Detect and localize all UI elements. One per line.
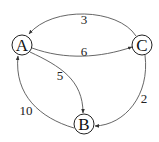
edge-c-to-b bbox=[95, 55, 146, 126]
edge-weight-c-to-b: 2 bbox=[141, 91, 148, 106]
edge-weight-b-to-a: 10 bbox=[20, 103, 33, 118]
edge-weight-a-to-c: 6 bbox=[81, 44, 88, 59]
edge-weight-c-to-a: 3 bbox=[81, 12, 88, 27]
node-a: A bbox=[12, 35, 32, 55]
node-c: C bbox=[132, 35, 152, 55]
graph-canvas: 3 6 5 2 10 A B C bbox=[0, 0, 159, 142]
node-b-label: B bbox=[78, 115, 89, 134]
node-c-label: C bbox=[136, 36, 147, 55]
node-a-label: A bbox=[16, 36, 29, 55]
node-b: B bbox=[74, 114, 94, 134]
edge-weight-a-to-b: 5 bbox=[57, 68, 64, 83]
edge-a-to-b bbox=[30, 52, 83, 113]
